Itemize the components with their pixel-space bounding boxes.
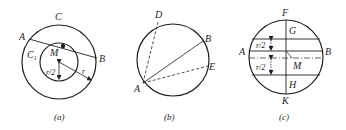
- panel-b: D B E A (b): [133, 9, 215, 122]
- label-m: M: [49, 47, 59, 58]
- caption-c: (c): [279, 112, 289, 122]
- label-b: B: [99, 53, 105, 64]
- label-c1: C1: [27, 49, 37, 61]
- label-h: H: [288, 79, 297, 90]
- label-r: r: [82, 67, 86, 76]
- label-a: A: [133, 83, 141, 94]
- caption-b: (b): [164, 112, 175, 122]
- label-b: B: [325, 46, 331, 57]
- caption-a: (a): [54, 112, 65, 122]
- label-m: M: [292, 60, 302, 71]
- label-e: E: [208, 61, 215, 72]
- label-c: C: [55, 11, 62, 22]
- chord-ab: [29, 39, 97, 58]
- label-k: K: [281, 95, 290, 106]
- figure-canvas: C A B C1 M r/2 r (a) D B E A (b) F G A B…: [0, 0, 346, 130]
- circle-b: [137, 24, 209, 96]
- chord-ae: [143, 66, 208, 83]
- label-r-half-bottom: r/2: [256, 63, 265, 72]
- label-a: A: [238, 46, 246, 57]
- radius-line: [59, 62, 91, 80]
- label-r-half-top: r/2: [256, 41, 265, 50]
- point-m-dot: [61, 44, 65, 48]
- label-g: G: [289, 25, 296, 36]
- label-d: D: [154, 9, 163, 20]
- label-f: F: [281, 7, 289, 18]
- panel-c: F G A B r/2 r/2 M H K (c): [238, 7, 331, 122]
- label-a: A: [18, 31, 26, 42]
- label-b: B: [205, 33, 211, 44]
- m-leader: [286, 51, 292, 58]
- label-r-half: r/2: [46, 68, 55, 77]
- panel-a: C A B C1 M r/2 r (a): [18, 11, 105, 122]
